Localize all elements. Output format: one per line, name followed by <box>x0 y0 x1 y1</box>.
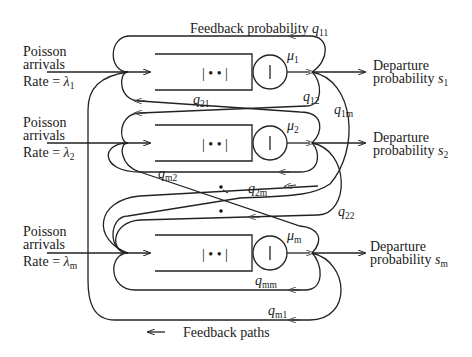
ellipsis-dot-1 <box>219 185 223 189</box>
station-2: Poisson arrivals Rate = λ2 | • • | μ2 De… <box>23 115 448 162</box>
rate-label-1: Rate = λ1 <box>23 74 75 91</box>
queue-contents-1: | • • | <box>202 66 228 81</box>
label-qm1: qm1 <box>268 303 287 320</box>
rate-label-2: Rate = λ2 <box>23 145 75 162</box>
departure-label-1b: probability s1 <box>373 71 448 88</box>
service-rate-2: μ2 <box>286 118 299 135</box>
service-rate-1: μ1 <box>286 48 299 65</box>
label-q12: q12 <box>303 89 320 106</box>
queue-contents-m: | • • | <box>202 247 228 262</box>
path-q2m <box>116 143 342 253</box>
station-m: Poisson arrivals Rate = λm | • • | μm De… <box>23 224 448 271</box>
rate-label-m: Rate = λm <box>23 254 78 271</box>
arrival-label-1b: arrivals <box>23 57 65 72</box>
departure-label-mb: probability sm <box>370 252 448 269</box>
label-qm2: qm2 <box>158 166 177 183</box>
departure-label-2b: probability s2 <box>373 143 448 160</box>
path-qm2-tail <box>122 143 140 172</box>
label-q22: q22 <box>338 204 355 221</box>
label-qmm: qmm <box>255 273 277 290</box>
queueing-network-diagram: Feedback probability q11 Poisson arrival… <box>0 0 472 357</box>
queue-contents-2: | • • | <box>202 137 228 152</box>
label-q1m: q1m <box>334 102 354 119</box>
arrival-label-mb: arrivals <box>23 237 65 252</box>
label-q2m: q2m <box>248 181 268 198</box>
path-q1m-arrow <box>288 185 296 186</box>
ellipsis-dot-2 <box>219 209 223 213</box>
legend-label: Feedback paths <box>183 325 270 340</box>
legend: Feedback paths <box>148 325 270 340</box>
label-q21: q21 <box>193 92 210 109</box>
path-qm1 <box>88 72 341 320</box>
service-rate-m: μm <box>286 228 302 245</box>
station-1: Poisson arrivals Rate = λ1 | • • | μ1 De… <box>23 44 448 91</box>
arrival-label-2b: arrivals <box>23 128 65 143</box>
